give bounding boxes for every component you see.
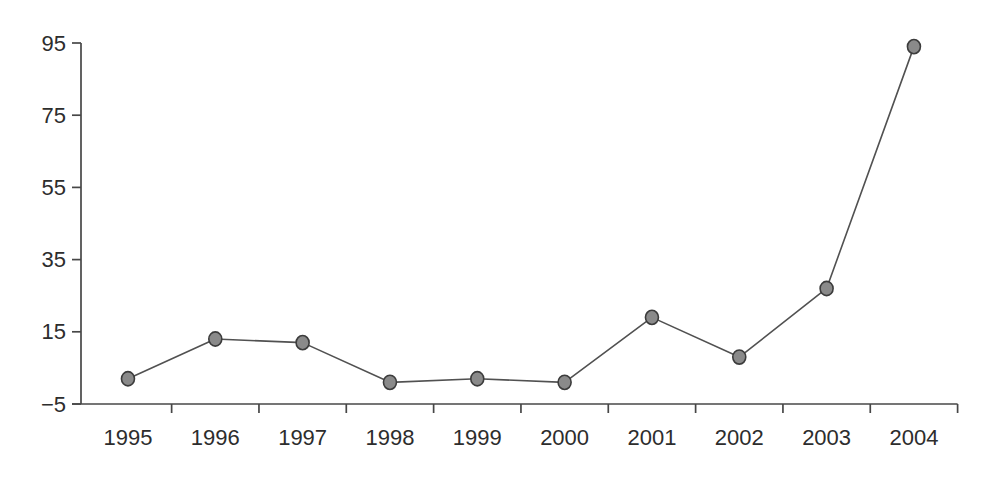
data-point-2001 xyxy=(645,310,658,324)
y-tick-label: 35 xyxy=(42,247,66,272)
data-point-2004 xyxy=(907,40,920,54)
x-tick-label-2003: 2003 xyxy=(802,425,851,450)
data-point-2003 xyxy=(820,281,833,295)
scanned-chart-page: 9575553515−51995199619971998199920002001… xyxy=(0,0,992,481)
line-chart-figure: 9575553515−51995199619971998199920002001… xyxy=(0,0,992,481)
x-tick-label-1995: 1995 xyxy=(103,425,152,450)
x-tick-label-1999: 1999 xyxy=(453,425,502,450)
y-tick-label: 55 xyxy=(42,175,66,200)
x-tick-label-2000: 2000 xyxy=(540,425,589,450)
data-point-1999 xyxy=(471,372,484,386)
line-chart: 9575553515−51995199619971998199920002001… xyxy=(0,0,992,481)
y-tick-label: 75 xyxy=(42,103,66,128)
data-point-2002 xyxy=(733,350,746,364)
data-point-2000 xyxy=(558,375,571,389)
y-tick-label: 15 xyxy=(42,319,66,344)
data-point-1996 xyxy=(209,332,222,346)
x-tick-label-2004: 2004 xyxy=(889,425,938,450)
x-tick-label-2002: 2002 xyxy=(715,425,764,450)
y-tick-label: −5 xyxy=(41,392,66,417)
data-point-1995 xyxy=(121,372,134,386)
data-point-1998 xyxy=(383,375,396,389)
data-point-1997 xyxy=(296,336,309,350)
x-tick-label-1997: 1997 xyxy=(278,425,327,450)
x-tick-label-2001: 2001 xyxy=(627,425,676,450)
y-tick-label: 95 xyxy=(42,31,66,56)
x-tick-label-1996: 1996 xyxy=(191,425,240,450)
x-tick-label-1998: 1998 xyxy=(365,425,414,450)
